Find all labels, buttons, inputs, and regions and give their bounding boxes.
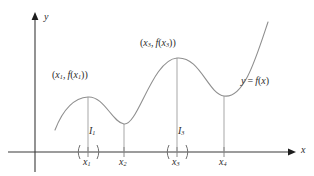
x-axis (8, 149, 296, 156)
x-axis-label: x (301, 145, 305, 155)
interval-label-I3: I3 (178, 126, 184, 137)
interval-label-I1-subscript: 1 (92, 129, 95, 136)
interval-label-I3-subscript: 3 (181, 129, 184, 136)
y-axis-arrow-icon (32, 12, 39, 20)
tick-label-x4-subscript: 4 (223, 160, 226, 167)
drop-lines (88, 58, 224, 152)
tick-label-x1-subscript: 1 (87, 160, 90, 167)
figure-canvas: y x (x1, f(x1)) (x3, f(x3)) y = f(x) I1 … (0, 0, 314, 176)
y-axis (32, 12, 39, 172)
y-axis-label: y (44, 12, 48, 22)
interval-label-I1: I1 (89, 126, 95, 137)
tick-label-x1: x1 (83, 157, 91, 168)
tick-label-x3-subscript: 3 (176, 160, 179, 167)
point-label-x3: (x3, f(x3)) (140, 38, 176, 49)
point-label-x1: (x1, f(x1)) (52, 70, 88, 81)
tick-label-x4: x4 (219, 157, 227, 168)
x-axis-arrow-icon (288, 149, 296, 156)
tick-label-x2: x2 (119, 157, 127, 168)
diagram-svg (0, 0, 314, 176)
tick-label-x2-subscript: 2 (123, 160, 126, 167)
tick-label-x3: x3 (172, 157, 180, 168)
function-label: y = f(x) (241, 76, 269, 86)
